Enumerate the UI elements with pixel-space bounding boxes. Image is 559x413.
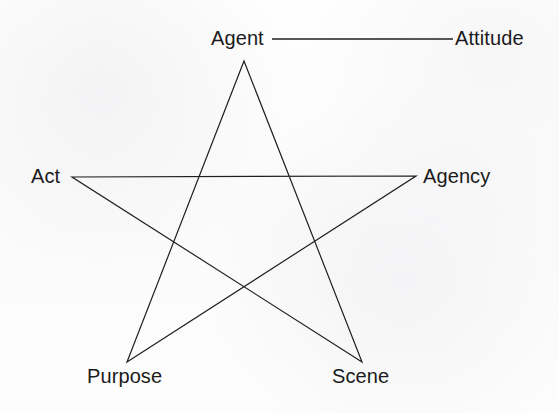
diagram-canvas: Agent Attitude Act Agency Purpose Scene xyxy=(0,0,559,413)
vertex-label-purpose: Purpose xyxy=(87,366,162,386)
pentagram-graphic xyxy=(0,0,559,413)
vertex-label-agent: Agent xyxy=(211,28,264,48)
pentagram-star-path xyxy=(72,61,416,362)
vertex-label-agency: Agency xyxy=(423,166,490,186)
vertex-label-attitude: Attitude xyxy=(455,28,524,48)
vertex-label-scene: Scene xyxy=(332,366,389,386)
vertex-label-act: Act xyxy=(31,166,60,186)
